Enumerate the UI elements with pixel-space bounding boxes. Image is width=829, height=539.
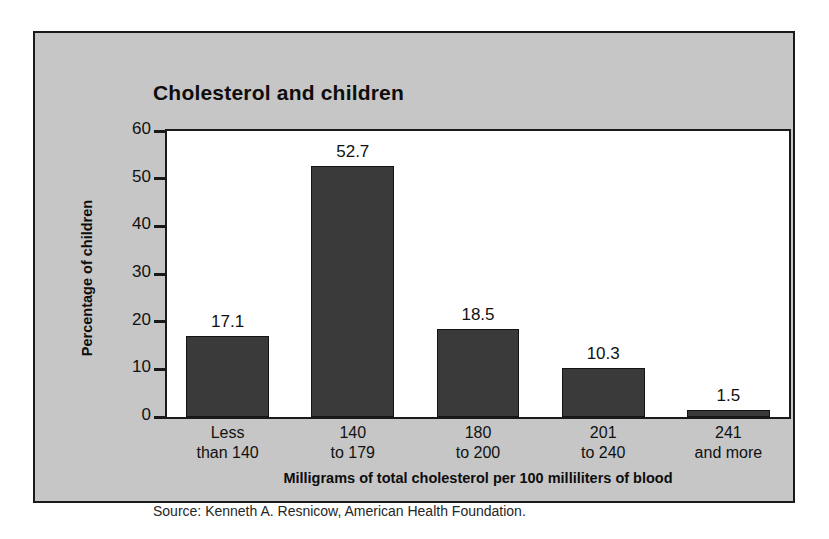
y-axis-tick-mark — [154, 273, 165, 276]
x-axis-category-line: Less — [165, 423, 290, 443]
x-axis-title: Milligrams of total cholesterol per 100 … — [165, 470, 791, 486]
bar-item[interactable]: 18.5 — [437, 131, 520, 417]
bar-rect[interactable] — [186, 336, 269, 418]
y-axis-tick-label: 60 — [132, 119, 151, 139]
x-axis-category-line: than 140 — [165, 443, 290, 463]
x-axis-category-line: 201 — [541, 423, 666, 443]
y-axis-tick-label: 50 — [132, 167, 151, 187]
x-axis-category-label: Lessthan 140 — [165, 423, 290, 463]
bar-value-label: 1.5 — [717, 386, 741, 406]
x-axis-category-label: 140to 179 — [290, 423, 415, 463]
y-axis-tick-label: 20 — [132, 310, 151, 330]
bar-value-label: 10.3 — [587, 344, 620, 364]
y-axis-tick-label: 0 — [142, 405, 151, 425]
chart-title: Cholesterol and children — [153, 81, 404, 105]
y-axis-tick-mark — [154, 130, 165, 133]
y-axis-tick-label: 30 — [132, 262, 151, 282]
x-axis-category-line: to 179 — [290, 443, 415, 463]
x-axis-category-line: 241 — [666, 423, 791, 443]
bar-value-label: 18.5 — [461, 305, 494, 325]
chart-panel: Cholesterol and children Percentage of c… — [33, 31, 795, 503]
bar-value-label: 52.7 — [336, 142, 369, 162]
bar-item[interactable]: 1.5 — [687, 131, 770, 417]
bar-item[interactable]: 17.1 — [186, 131, 269, 417]
x-axis-category-label: 180to 200 — [415, 423, 540, 463]
bar-rect[interactable] — [687, 410, 770, 417]
bar-item[interactable]: 52.7 — [311, 131, 394, 417]
y-axis-tick-mark — [154, 225, 165, 228]
bar-rect[interactable] — [437, 329, 520, 417]
y-axis-tick-mark — [154, 320, 165, 323]
y-axis-tick-mark — [154, 368, 165, 371]
x-axis-category-line: to 200 — [415, 443, 540, 463]
y-axis-tick-label: 10 — [132, 357, 151, 377]
x-axis-category-label: 241and more — [666, 423, 791, 463]
y-axis-tick-mark — [154, 177, 165, 180]
x-axis-category-line: and more — [666, 443, 791, 463]
x-axis-category-line: 140 — [290, 423, 415, 443]
bar-rect[interactable] — [311, 166, 394, 417]
y-axis-title: Percentage of children — [79, 163, 95, 393]
x-axis-category-line: to 240 — [541, 443, 666, 463]
bar-rect[interactable] — [562, 368, 645, 417]
source-note: Source: Kenneth A. Resnicow, American He… — [153, 503, 526, 519]
bar-item[interactable]: 10.3 — [562, 131, 645, 417]
chart-figure: Cholesterol and children Percentage of c… — [0, 0, 829, 539]
bar-value-label: 17.1 — [211, 312, 244, 332]
bar-series: 17.152.718.510.31.5 — [165, 129, 791, 419]
x-axis-category-line: 180 — [415, 423, 540, 443]
y-axis-tick-label: 40 — [132, 214, 151, 234]
x-axis-category-label: 201to 240 — [541, 423, 666, 463]
x-axis-tick-labels: Lessthan 140140to 179180to 200201to 2402… — [165, 423, 791, 467]
y-axis-tick-mark — [154, 416, 165, 419]
